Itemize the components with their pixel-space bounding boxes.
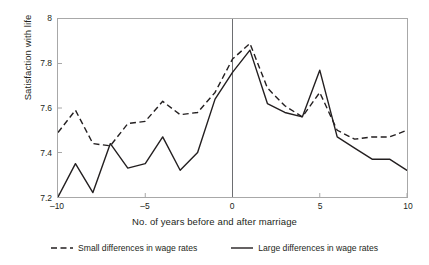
legend-label: Small differences in wage rates xyxy=(78,243,197,253)
chart-plot-svg xyxy=(58,19,407,197)
x-tick-label: 10 xyxy=(388,202,428,211)
y-tick-label: 7.8 xyxy=(24,59,52,68)
x-axis-title: No. of years before and after marriage xyxy=(0,216,429,227)
solid-line-icon xyxy=(231,244,253,252)
dashed-line-icon xyxy=(51,244,73,252)
x-tick-label: –10 xyxy=(37,202,77,211)
y-tick-label: 7.4 xyxy=(24,149,52,158)
x-tick-label: 5 xyxy=(300,202,340,211)
x-tick-label: –5 xyxy=(125,202,165,211)
plot-area xyxy=(57,18,408,198)
legend-label: Large differences in wage rates xyxy=(258,243,378,253)
chart-legend: Small differences in wage rates Large di… xyxy=(0,243,429,253)
y-tick-label: 8 xyxy=(24,14,52,23)
y-tick-label: 7.6 xyxy=(24,104,52,113)
legend-item-small-differences: Small differences in wage rates xyxy=(51,243,197,253)
legend-item-large-differences: Large differences in wage rates xyxy=(231,243,378,253)
x-tick-label: 0 xyxy=(212,202,252,211)
chart-figure: Satisfaction with life 8 7.8 7.6 7.4 7.2… xyxy=(0,0,429,265)
